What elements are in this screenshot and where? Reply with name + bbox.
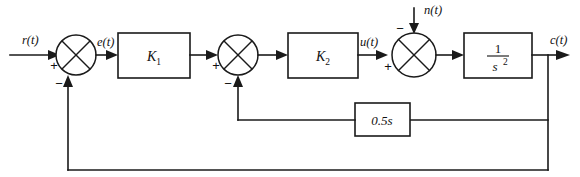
sign-sum1-left: + [50, 58, 58, 73]
arrowhead-disturbance-input [409, 23, 419, 34]
label-disturbance: n(t) [424, 3, 442, 17]
block-diagram-canvas: K1 K2 1 s 2 [0, 0, 580, 177]
plant-denominator-exponent: 2 [503, 57, 508, 67]
sign-sum2-bottom: − [224, 76, 232, 91]
sign-sum3-left: + [384, 59, 392, 74]
label-output: c(t) [550, 33, 567, 47]
arrowhead-output [556, 50, 570, 60]
gain-block-rate-feedback-label: 0.5s [371, 113, 392, 128]
arrowhead-sum2-to-k2 [276, 50, 288, 60]
arrowhead-outer-feedback [63, 75, 73, 87]
arrowhead-error-signal [106, 50, 118, 60]
arrowhead-sum3-to-plant [452, 50, 464, 60]
label-reference-input: r(t) [22, 33, 39, 47]
arrowhead-rate-feedback [233, 75, 243, 87]
sign-sum1-bottom: − [55, 76, 63, 91]
sign-sum3-top: − [396, 21, 404, 36]
label-control-signal: u(t) [360, 35, 378, 49]
control-system-diagram: K1 K2 1 s 2 [0, 0, 580, 177]
label-error-signal: e(t) [97, 35, 114, 49]
sign-sum2-left: + [212, 58, 220, 73]
plant-numerator: 1 [495, 41, 502, 56]
plant-denominator: s [492, 59, 497, 74]
